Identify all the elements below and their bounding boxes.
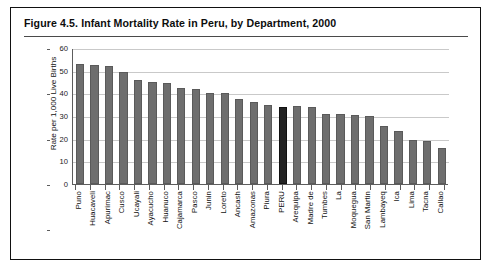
bar (163, 83, 171, 184)
x-axis-tick-mark (296, 185, 297, 190)
y-axis-tick-label: 0 (50, 181, 68, 189)
x-axis-tick-label: Tumbes (321, 191, 329, 219)
bar (394, 131, 402, 184)
plot-area (72, 49, 448, 185)
bar (351, 115, 359, 184)
y-axis-tick-label: 10 (50, 158, 68, 166)
x-axis-tick-label: Huacaveli (89, 191, 97, 226)
bar (365, 116, 373, 184)
x-axis-tick-label: Arequipa (292, 191, 300, 223)
bar-chart: Rate per 1,000 Live Births 0102030405060… (11, 8, 482, 261)
y-axis-tick-label: 20 (50, 136, 68, 144)
bar (221, 93, 229, 184)
x-axis-tick-mark (414, 185, 415, 190)
x-axis-tick-label: Ucayali (133, 191, 141, 217)
y-axis-tick-mark (47, 49, 51, 50)
x-axis-tick-mark (119, 185, 120, 190)
bar (409, 140, 417, 184)
x-axis-tick-mark (341, 185, 342, 190)
y-axis-tick-label: 50 (50, 68, 68, 76)
x-axis-tick-label: Puno (75, 191, 83, 209)
y-axis-tick-label: 30 (50, 113, 68, 121)
bar (235, 99, 243, 184)
x-axis-tick-label: Huanuco (162, 191, 170, 222)
bar (177, 88, 185, 184)
bar (423, 141, 431, 184)
bar (279, 107, 287, 184)
x-axis-tick-mark (267, 185, 268, 190)
x-axis-tick-mark (178, 185, 179, 190)
x-axis-tick-mark (400, 185, 401, 190)
y-axis-tick-label: 40 (50, 90, 68, 98)
x-axis-tick-label: Lima (408, 191, 416, 208)
x-axis-tick-mark (149, 185, 150, 190)
x-axis-tick-mark (134, 185, 135, 190)
figure-frame: Figure 4.5. Infant Mortality Rate in Per… (10, 7, 481, 260)
x-axis-tick-label: San Martin (364, 191, 372, 229)
x-axis-tick-label: Junin (205, 191, 213, 210)
x-axis-tick-label: Cajamarca (176, 191, 184, 229)
x-axis-tick-label: Callao (437, 191, 445, 213)
bar (148, 82, 156, 184)
bar (105, 66, 113, 184)
x-axis-tick-mark (252, 185, 253, 190)
x-axis-tick-mark (326, 185, 327, 190)
x-axis-tick-label: Pasco (191, 191, 199, 213)
bar (250, 102, 258, 184)
x-axis-tick-label: Apurimac (104, 191, 112, 224)
x-axis-tick-mark (75, 185, 76, 190)
y-axis-tick-label: 60 (50, 45, 68, 53)
x-axis-tick-label: Ancash (234, 191, 242, 217)
bar-series (73, 48, 449, 184)
x-axis-tick-marks (72, 185, 448, 190)
bar (206, 93, 214, 184)
x-axis-tick-mark (429, 185, 430, 190)
x-axis-tick-mark (223, 185, 224, 190)
y-axis-tick-mark (47, 230, 51, 231)
bar (192, 89, 200, 184)
x-axis-tick-label: Piura (263, 191, 271, 209)
x-axis-tick-label: Tacna (422, 191, 430, 212)
x-axis-tick-label: Madre de (307, 191, 315, 224)
x-axis-tick-mark (164, 185, 165, 190)
x-axis-tick-mark (237, 185, 238, 190)
bar (336, 114, 344, 184)
y-axis-tick-mark (47, 140, 51, 141)
x-axis-tick-label: Lambayeq (379, 191, 387, 228)
bar (134, 80, 142, 184)
x-axis-tick-label: Ica (393, 191, 401, 202)
x-axis-tick-label: Loreto (220, 191, 228, 213)
bar (264, 105, 272, 184)
x-axis-tick-mark (90, 185, 91, 190)
x-axis-tick-mark (355, 185, 356, 190)
bar (380, 126, 388, 184)
x-axis-tick-mark (105, 185, 106, 190)
bar (119, 72, 127, 184)
x-axis-tick-mark (193, 185, 194, 190)
bar (76, 64, 84, 184)
y-axis-tick-labels: 0102030405060 (47, 49, 68, 185)
y-axis-title-container: Rate per 1,000 Live Births (33, 49, 47, 185)
x-axis-tick-mark (444, 185, 445, 190)
y-axis-tick-mark (47, 185, 51, 186)
x-axis-tick-label: Ayacucho (147, 191, 155, 225)
x-axis-tick-mark (311, 185, 312, 190)
x-axis-tick-mark (208, 185, 209, 190)
x-axis-tick-mark (282, 185, 283, 190)
x-axis-tick-label: La (335, 191, 343, 200)
bar (308, 107, 316, 184)
x-axis-tick-labels: PunoHuacaveliApurimacCuscoUcayaliAyacuch… (72, 191, 448, 257)
bar (438, 148, 446, 184)
x-axis-tick-mark (370, 185, 371, 190)
x-axis-tick-mark (385, 185, 386, 190)
bar (293, 106, 301, 184)
x-axis-tick-label: Amazonas (249, 191, 257, 228)
y-axis-tick-mark (47, 94, 51, 95)
x-axis-tick-label: Cusco (118, 191, 126, 213)
bar (90, 65, 98, 184)
bar (322, 114, 330, 184)
x-axis-tick-label: PERU (278, 191, 286, 213)
x-axis-tick-label: Moquegua (350, 191, 358, 228)
